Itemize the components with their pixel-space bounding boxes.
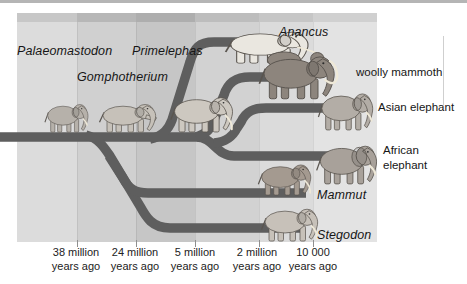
time-label-5-million: 5 million years ago bbox=[171, 246, 219, 273]
asian-elephant-illustration bbox=[316, 88, 374, 131]
time-value: 38 million bbox=[52, 246, 100, 260]
time-value: 5 million bbox=[171, 246, 219, 260]
time-unit: years ago bbox=[289, 260, 337, 274]
label-african-elephant-line2: elephant bbox=[383, 158, 427, 173]
label-mammut: Mammut bbox=[317, 188, 366, 202]
time-label-10000: 10 000 years ago bbox=[289, 246, 337, 273]
time-label-2-million: 2 million years ago bbox=[233, 246, 281, 273]
label-gomphotherium: Gomphotherium bbox=[77, 70, 168, 84]
gomphotherium-illustration bbox=[97, 100, 157, 133]
palaeomastodon-illustration bbox=[43, 100, 89, 133]
label-palaeomastodon: Palaeomastodon bbox=[17, 44, 112, 58]
elephant-evolution-diagram: Palaeomastodon Gomphotherium Primelephas… bbox=[0, 0, 467, 284]
time-label-24-million: 24 million years ago bbox=[111, 246, 159, 273]
time-unit: years ago bbox=[233, 260, 281, 274]
time-value: 2 million bbox=[233, 246, 281, 260]
label-african-elephant-line1: African bbox=[383, 143, 427, 158]
time-unit: years ago bbox=[52, 260, 100, 274]
mammut-illustration bbox=[256, 160, 312, 196]
time-value: 24 million bbox=[111, 246, 159, 260]
time-value: 10 000 bbox=[289, 246, 337, 260]
branch-trunk-to-african-elephant bbox=[0, 137, 334, 156]
time-unit: years ago bbox=[171, 260, 219, 274]
label-african-elephant: African elephant bbox=[383, 143, 427, 173]
stegodon-illustration bbox=[259, 204, 319, 242]
time-label-38-million: 38 million years ago bbox=[52, 246, 100, 273]
primelephas-illustration bbox=[168, 92, 234, 133]
time-unit: years ago bbox=[111, 260, 159, 274]
label-stegodon: Stegodon bbox=[317, 228, 371, 242]
figure-edge-line bbox=[443, 36, 444, 106]
label-primelephas: Primelephas bbox=[132, 44, 203, 58]
african-elephant-illustration bbox=[314, 140, 378, 185]
label-woolly-mammoth: woolly mammoth bbox=[356, 66, 442, 78]
label-anancus: Anancus bbox=[279, 25, 328, 39]
